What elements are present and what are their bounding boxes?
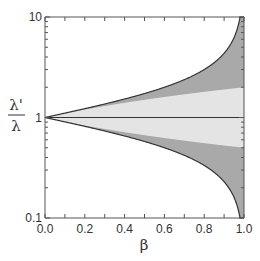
x-tick-label: 0.4 xyxy=(116,222,133,236)
x-axis-label: β xyxy=(140,236,149,254)
x-tick-label: 0.8 xyxy=(196,222,213,236)
y-tick-label: 10 xyxy=(29,10,43,24)
y-tick-label: 0.1 xyxy=(25,211,42,225)
y-axis-label-numerator: λ' xyxy=(9,96,23,114)
y-tick-label: 1 xyxy=(35,111,42,125)
x-tick-label: 1.0 xyxy=(236,222,253,236)
plot-area xyxy=(45,17,244,218)
x-tick-label: 0.6 xyxy=(156,222,173,236)
y-axis-label-denominator: λ xyxy=(11,117,21,135)
x-tick-label: 0.2 xyxy=(76,222,93,236)
chart: 0.00.20.40.60.81.00.1110 β λ' λ xyxy=(0,0,260,261)
